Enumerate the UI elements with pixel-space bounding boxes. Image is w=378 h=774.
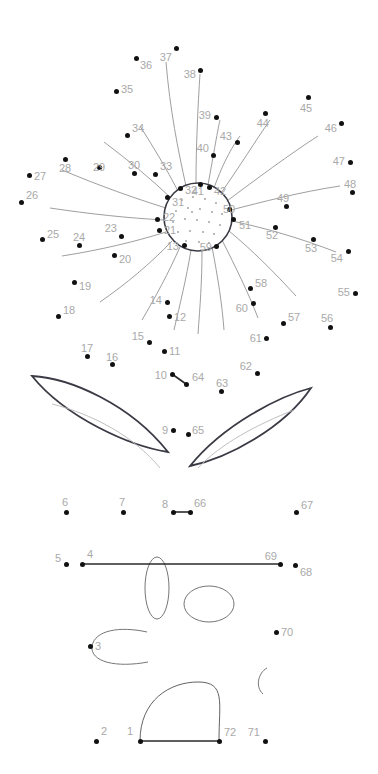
dot-label-70: 70 — [281, 627, 293, 638]
dot-34[interactable] — [125, 133, 130, 138]
dot-label-6: 6 — [62, 497, 68, 508]
dot-label-4: 4 — [87, 549, 93, 560]
dot-45[interactable] — [306, 95, 311, 100]
dot-58[interactable] — [248, 286, 253, 291]
dot-label-67: 67 — [301, 500, 313, 511]
dot-27[interactable] — [27, 173, 32, 178]
dot-46[interactable] — [339, 121, 344, 126]
dot-32[interactable] — [178, 186, 183, 191]
dot-label-65: 65 — [192, 425, 204, 436]
dot-label-68: 68 — [300, 567, 312, 578]
leaf-left — [32, 376, 168, 468]
dot-24[interactable] — [77, 243, 82, 248]
dot-71[interactable] — [263, 739, 268, 744]
dot-42[interactable] — [207, 185, 212, 190]
dot-17[interactable] — [85, 354, 90, 359]
dot-70[interactable] — [274, 630, 279, 635]
dot-47[interactable] — [348, 160, 353, 165]
dot-6[interactable] — [64, 510, 69, 515]
dot-label-21: 21 — [164, 225, 176, 236]
dot-label-7: 7 — [119, 497, 125, 508]
dot-1[interactable] — [138, 739, 143, 744]
dot-49[interactable] — [284, 204, 289, 209]
dot-64[interactable] — [184, 382, 189, 387]
dot-label-25: 25 — [47, 229, 59, 240]
dot-label-37: 37 — [160, 52, 172, 63]
dot-20[interactable] — [112, 253, 117, 258]
dot-3[interactable] — [88, 644, 93, 649]
dot-9[interactable] — [171, 428, 176, 433]
dot-18[interactable] — [56, 314, 61, 319]
dot-57[interactable] — [281, 321, 286, 326]
dot-7[interactable] — [121, 510, 126, 515]
dot-label-47: 47 — [333, 156, 345, 167]
dot-label-35: 35 — [121, 84, 133, 95]
dot-label-54: 54 — [331, 253, 343, 264]
dot-38[interactable] — [198, 68, 203, 73]
dot-19[interactable] — [72, 280, 77, 285]
dot-48[interactable] — [350, 190, 355, 195]
dot-label-59: 59 — [200, 242, 212, 253]
dot-31[interactable] — [165, 195, 170, 200]
dot-39[interactable] — [214, 115, 219, 120]
dot-55[interactable] — [353, 291, 358, 296]
dot-40[interactable] — [211, 153, 216, 158]
dot-44[interactable] — [263, 111, 268, 116]
dot-69[interactable] — [278, 562, 283, 567]
dot-21[interactable] — [157, 228, 162, 233]
dot-label-17: 17 — [81, 343, 93, 354]
connector-lines — [82, 374, 280, 741]
dot-label-19: 19 — [79, 281, 91, 292]
dot-2[interactable] — [94, 739, 99, 744]
dot-33[interactable] — [153, 172, 158, 177]
dot-label-45: 45 — [300, 103, 312, 114]
dot-62[interactable] — [255, 371, 260, 376]
dot-5[interactable] — [64, 562, 69, 567]
dot-65[interactable] — [186, 432, 191, 437]
c-curve-right — [258, 668, 267, 694]
dot-63[interactable] — [219, 389, 224, 394]
leaf-right — [190, 388, 311, 468]
dot-label-2: 2 — [101, 726, 107, 737]
dot-72[interactable] — [217, 739, 222, 744]
dot-37[interactable] — [174, 46, 179, 51]
dot-35[interactable] — [114, 89, 119, 94]
dot-23[interactable] — [119, 234, 124, 239]
dot-8[interactable] — [171, 510, 176, 515]
dot-51[interactable] — [231, 217, 236, 222]
dot-label-28: 28 — [59, 163, 71, 174]
dot-label-15: 15 — [132, 331, 144, 342]
dot-label-12: 12 — [174, 312, 186, 323]
dot-25[interactable] — [40, 237, 45, 242]
dot-15[interactable] — [147, 340, 152, 345]
dot-label-44: 44 — [257, 118, 269, 129]
dot-60[interactable] — [251, 301, 256, 306]
dot-14[interactable] — [165, 300, 170, 305]
dot-30[interactable] — [132, 171, 137, 176]
dot-59[interactable] — [214, 244, 219, 249]
dot-67[interactable] — [294, 510, 299, 515]
dot-12[interactable] — [167, 314, 172, 319]
dot-4[interactable] — [80, 562, 85, 567]
dot-26[interactable] — [19, 200, 24, 205]
dot-label-62: 62 — [240, 361, 252, 372]
dot-61[interactable] — [264, 336, 269, 341]
dot-label-8: 8 — [162, 499, 168, 510]
dot-label-55: 55 — [338, 287, 350, 298]
dot-label-24: 24 — [73, 232, 85, 243]
dot-label-50: 50 — [223, 204, 235, 215]
connect-the-dots-puzzle: 1234567891011121314151617181920212223242… — [0, 0, 378, 774]
dot-66[interactable] — [188, 510, 193, 515]
dot-label-53: 53 — [305, 243, 317, 254]
dot-68[interactable] — [293, 563, 298, 568]
dot-11[interactable] — [162, 349, 167, 354]
dot-43[interactable] — [235, 140, 240, 145]
dot-22[interactable] — [155, 217, 160, 222]
dot-label-33: 33 — [160, 161, 172, 172]
dot-label-39: 39 — [199, 110, 211, 121]
dot-10[interactable] — [170, 372, 175, 377]
dot-54[interactable] — [346, 249, 351, 254]
dot-56[interactable] — [328, 325, 333, 330]
dot-36[interactable] — [134, 56, 139, 61]
dot-13[interactable] — [182, 243, 187, 248]
